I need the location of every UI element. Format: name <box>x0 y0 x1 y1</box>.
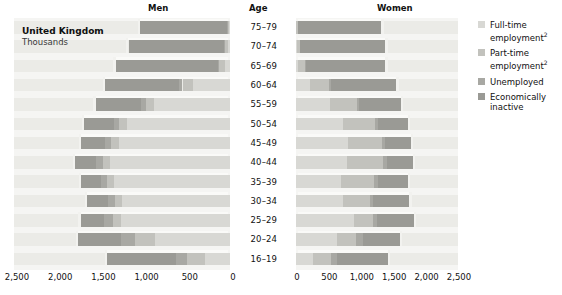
age-group-label: 55–59 <box>231 99 277 109</box>
table-row <box>14 250 230 269</box>
bar-segment-ft <box>296 233 337 246</box>
bar-side-face <box>381 19 383 34</box>
bar-segment-ei <box>140 21 227 34</box>
legend-item-full_time[interactable]: Full-time employment2 <box>478 20 558 43</box>
bar-segment-un <box>96 156 102 169</box>
stacked-bar <box>96 98 230 111</box>
bar-segment-ft <box>296 214 354 227</box>
bar-top-lip <box>298 38 387 40</box>
bar-top-lip <box>76 231 228 233</box>
legend-item-label: Unemployed <box>490 77 544 87</box>
bar-segment-pt <box>103 156 110 169</box>
age-row: 45–49 <box>231 134 293 153</box>
bar-segment-pt <box>354 214 373 227</box>
table-row <box>14 57 230 76</box>
age-group-label: 50–54 <box>231 119 277 129</box>
age-group-label: 30–34 <box>231 196 277 206</box>
bar-top-lip <box>79 134 228 136</box>
bar-side-face <box>413 154 415 169</box>
bar-segment-ei <box>75 156 96 169</box>
axis-tick-label: 0 <box>230 272 235 282</box>
legend-item-unemployed[interactable]: Unemployed <box>478 77 558 87</box>
bar-segment-ei <box>105 79 179 92</box>
axis-tick-label: 0 <box>294 272 299 282</box>
bar-top-lip <box>126 38 228 40</box>
age-row: 35–39 <box>231 172 293 191</box>
bar-segment-ft <box>119 137 230 150</box>
column-header-age: Age <box>249 3 267 13</box>
bar-segment-ei <box>298 21 382 34</box>
bar-segment-pt <box>330 98 357 111</box>
stacked-bar <box>296 118 408 131</box>
age-group-label: 25–29 <box>231 215 277 225</box>
legend-item-part_time[interactable]: Part-time employment2 <box>478 48 558 71</box>
stacked-bar <box>81 137 230 150</box>
legend-swatch-icon <box>478 21 485 28</box>
bar-side-face <box>113 57 115 72</box>
bar-segment-pt <box>343 195 370 208</box>
stacked-bar <box>296 156 413 169</box>
bar-segment-ei <box>81 214 105 227</box>
legend-item-label: Economically inactive <box>490 92 546 112</box>
age-row: 60–64 <box>231 76 293 95</box>
bar-top-lip <box>298 173 410 175</box>
table-row <box>296 115 458 134</box>
bar-segment-ei <box>87 195 108 208</box>
population-pyramid-chart: Men Age Women 75–7970–7465–6960–6455–595… <box>0 0 562 295</box>
table-row <box>14 134 230 153</box>
table-row <box>296 172 458 191</box>
table-row <box>296 37 458 56</box>
bar-segment-ft <box>296 175 341 188</box>
legend-item-inactive[interactable]: Economically inactive <box>478 92 558 112</box>
stacked-bar <box>296 214 414 227</box>
bar-segment-pt <box>119 118 127 131</box>
table-row <box>296 250 458 269</box>
bar-segment-ei <box>378 118 408 131</box>
bar-segment-ei <box>359 98 401 111</box>
bar-top-lip <box>298 57 387 59</box>
bar-segment-ft <box>225 60 230 73</box>
table-row <box>14 95 230 114</box>
bar-segment-un <box>141 98 146 111</box>
bar-side-face <box>411 134 413 149</box>
stacked-bar <box>78 233 230 246</box>
age-group-label: 70–74 <box>231 41 277 51</box>
legend-item-label: Part-time employment <box>490 48 544 71</box>
bar-side-face <box>409 192 411 207</box>
bar-side-face <box>126 38 128 53</box>
bar-segment-pt <box>228 21 229 34</box>
table-row <box>296 18 458 37</box>
bar-segment-ft <box>127 118 230 131</box>
bar-segment-ei <box>331 79 396 92</box>
bar-top-lip <box>138 19 228 21</box>
bar-segment-pt <box>313 253 330 266</box>
axis-tick-label: 1,000 <box>134 272 158 282</box>
bar-segment-pt <box>107 175 114 188</box>
axis-tick-label: 1,500 <box>382 272 406 282</box>
age-group-label: 65–69 <box>231 61 277 71</box>
bar-top-lip <box>298 231 402 233</box>
legend-footnote-marker: 2 <box>544 31 548 38</box>
panel-men <box>14 18 230 270</box>
table-row <box>14 76 230 95</box>
bar-side-face <box>93 96 95 111</box>
bar-segment-pt <box>343 118 375 131</box>
bar-top-lip <box>93 96 227 98</box>
bar-segment-ei <box>107 253 176 266</box>
axis-tick-label: 500 <box>182 272 198 282</box>
bar-segment-ei <box>373 195 409 208</box>
bar-segment-ft <box>296 156 347 169</box>
bar-top-lip <box>298 212 416 214</box>
stacked-bar <box>296 195 409 208</box>
bar-top-lip <box>103 77 228 79</box>
bar-segment-pt <box>146 98 154 111</box>
bar-top-lip <box>113 57 227 59</box>
bar-segment-un <box>218 60 219 73</box>
bar-top-lip <box>298 19 383 21</box>
bar-segment-un <box>105 137 111 150</box>
age-group-label: 60–64 <box>231 80 277 90</box>
bar-segment-pt <box>341 175 374 188</box>
bar-segment-ft <box>110 156 230 169</box>
table-row <box>296 57 458 76</box>
bar-segment-pt <box>111 137 118 150</box>
